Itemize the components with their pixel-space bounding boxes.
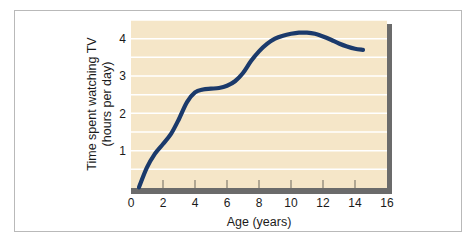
figure-container: 4 3 2 1 0 2 4 6 8 10 12 14 16 Age (years… (0, 0, 475, 246)
y-tick-labels: 4 3 2 1 (119, 32, 126, 158)
x-tick-label: 14 (348, 196, 362, 210)
y-tick-label: 1 (119, 144, 126, 158)
x-tick-label: 16 (380, 196, 394, 210)
x-tick-label: 10 (284, 196, 298, 210)
x-tick-label: 6 (224, 196, 231, 210)
x-tick-label: 2 (160, 196, 167, 210)
x-tick-labels: 0 2 4 6 8 10 12 14 16 (128, 196, 394, 210)
x-tick-label: 12 (316, 196, 330, 210)
y-tick-label: 2 (119, 107, 126, 121)
x-axis-label: Age (years) (227, 215, 292, 229)
line-chart: 4 3 2 1 0 2 4 6 8 10 12 14 16 Age (years… (0, 0, 475, 246)
x-tick-label: 4 (192, 196, 199, 210)
y-axis-label-line2: (hours per day) (100, 62, 114, 147)
y-axis-label-line1: Time spent watching TV (85, 37, 99, 171)
y-tick-label: 4 (119, 32, 126, 46)
x-tick-label: 8 (256, 196, 263, 210)
x-tick-label: 0 (128, 196, 135, 210)
y-tick-label: 3 (119, 69, 126, 83)
y-axis-label: Time spent watching TV (hours per day) (85, 37, 114, 171)
